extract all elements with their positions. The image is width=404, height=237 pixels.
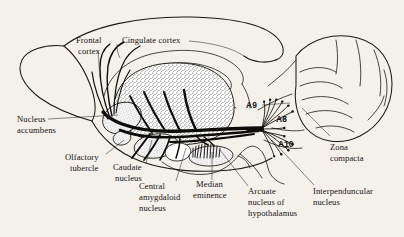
label-nucleus-accumbens-line1: Nucleus xyxy=(17,114,46,124)
label-zona-compacta-line1: Zona xyxy=(330,142,348,152)
label-central-amygdaloid-line3: nucleus xyxy=(139,203,166,213)
label-zona-compacta-line2: compacta xyxy=(330,153,364,163)
label-a10: A10 xyxy=(278,139,294,149)
label-interpenduncular-line1: Interpenduncular xyxy=(313,186,373,196)
label-arcuate-line1: Arcuate xyxy=(248,186,276,196)
label-frontal-cortex-line2: cortex xyxy=(78,46,101,56)
label-median-eminence-line2: eminence xyxy=(193,190,227,200)
label-interpenduncular-line2: nucleus xyxy=(313,197,340,207)
label-arcuate-line3: hypothalamus xyxy=(248,208,298,218)
label-nucleus-accumbens-line2: accumbens xyxy=(17,125,57,135)
label-a8: A8 xyxy=(276,114,287,124)
brain-pathway-figure: Frontal cortex Cingulate cortex Nucleus … xyxy=(0,0,404,237)
label-central-amygdaloid-line2: amygdaloid xyxy=(139,192,181,202)
label-central-amygdaloid-line1: Central xyxy=(139,181,165,191)
label-median-eminence-line1: Median xyxy=(196,179,223,189)
label-olfactory-tubercle-line2: tubercle xyxy=(70,163,98,173)
label-caudate-nucleus-line1: Caudate xyxy=(113,162,142,172)
label-arcuate-line2: nucleus of xyxy=(248,197,284,207)
label-frontal-cortex-line1: Frontal xyxy=(76,35,102,45)
label-a9: A9 xyxy=(246,100,257,110)
label-olfactory-tubercle-line1: Olfactory xyxy=(65,152,99,162)
label-cingulate-cortex: Cingulate cortex xyxy=(122,35,181,45)
diagram-canvas: Frontal cortex Cingulate cortex Nucleus … xyxy=(0,0,404,237)
